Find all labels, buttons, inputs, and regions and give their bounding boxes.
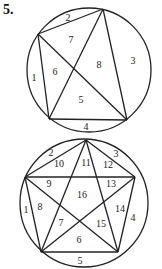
- region-label: 15: [96, 218, 106, 229]
- region-label: 10: [54, 158, 64, 169]
- geometry-figure: 12345678 12345678910111213141516: [0, 0, 162, 269]
- region-label: 14: [115, 203, 125, 214]
- region-label: 8: [97, 59, 102, 70]
- circle-pentagram-diagram: 12345678910111213141516: [20, 139, 148, 267]
- region-label: 5: [78, 255, 83, 266]
- region-label: 9: [47, 178, 52, 189]
- region-label: 2: [49, 147, 54, 158]
- region-label: 7: [59, 217, 64, 228]
- region-label: 11: [81, 157, 91, 168]
- segment-C-D: [49, 119, 127, 120]
- region-label: 2: [66, 12, 71, 23]
- segment-B-D: [38, 34, 127, 120]
- circle-quadrilateral-diagram: 12345678: [27, 8, 151, 132]
- region-label: 3: [114, 148, 119, 159]
- region-label: 8: [38, 201, 43, 212]
- region-label: 4: [131, 212, 136, 223]
- region-label: 5: [79, 94, 84, 105]
- circle: [27, 8, 151, 132]
- region-label: 7: [69, 34, 74, 45]
- segment-A-C: [49, 9, 103, 119]
- region-label: 3: [131, 55, 136, 66]
- region-label: 6: [53, 66, 58, 77]
- region-label: 6: [77, 234, 82, 245]
- region-label: 12: [103, 159, 113, 170]
- segment-B-C: [38, 34, 49, 119]
- region-label: 16: [77, 189, 87, 200]
- region-label: 1: [32, 72, 37, 83]
- segment-D-A: [103, 9, 127, 120]
- region-label: 4: [84, 121, 89, 132]
- region-label: 1: [24, 204, 29, 215]
- region-label: 13: [106, 178, 116, 189]
